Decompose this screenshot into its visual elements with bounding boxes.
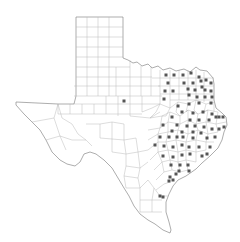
county-marker bbox=[167, 82, 170, 85]
county-marker bbox=[188, 103, 191, 106]
county-marker bbox=[218, 116, 221, 119]
county-marker bbox=[190, 72, 193, 75]
county-marker bbox=[182, 74, 185, 77]
county-marker bbox=[218, 128, 221, 131]
county-marker bbox=[192, 131, 195, 134]
county-marker bbox=[181, 144, 184, 147]
texas-county-map: Texas counties bbox=[0, 0, 240, 242]
county-marker bbox=[175, 173, 178, 176]
county-marker bbox=[172, 146, 175, 149]
county-marker bbox=[204, 96, 207, 99]
county-marker bbox=[173, 74, 176, 77]
county-marker bbox=[123, 100, 126, 103]
county-marker bbox=[204, 89, 207, 92]
county-marker bbox=[171, 130, 174, 133]
county-marker bbox=[205, 79, 208, 82]
county-marker bbox=[210, 102, 213, 105]
county-marker bbox=[201, 155, 204, 158]
county-marker bbox=[189, 153, 192, 156]
county-marker bbox=[182, 136, 185, 139]
county-marker bbox=[187, 164, 190, 167]
county-marker bbox=[215, 116, 218, 119]
county-marker bbox=[206, 137, 209, 140]
county-marker bbox=[201, 86, 204, 89]
county-marker bbox=[179, 164, 182, 167]
county-marker bbox=[211, 128, 214, 131]
county-marker bbox=[177, 105, 180, 108]
county-marker bbox=[192, 137, 195, 140]
county-marker bbox=[172, 90, 175, 93]
county-marker bbox=[208, 119, 211, 122]
county-marker bbox=[186, 125, 189, 128]
county-marker bbox=[162, 124, 165, 127]
county-marker bbox=[202, 111, 205, 114]
county-marker bbox=[209, 146, 212, 149]
county-marker bbox=[189, 119, 192, 122]
county-marker bbox=[172, 156, 175, 159]
county-marker bbox=[211, 96, 214, 99]
county-marker bbox=[188, 94, 191, 97]
county-marker bbox=[194, 89, 197, 92]
county-marker bbox=[211, 113, 214, 116]
county-marker bbox=[222, 116, 225, 119]
county-marker bbox=[171, 116, 174, 119]
county-marker bbox=[176, 124, 179, 127]
county-marker bbox=[162, 196, 165, 199]
county-marker bbox=[181, 111, 184, 114]
county-marker bbox=[188, 146, 191, 149]
county-marker bbox=[181, 154, 184, 157]
county-marker bbox=[163, 98, 166, 101]
county-marker bbox=[214, 136, 217, 139]
county-marker bbox=[210, 90, 213, 93]
county-marker bbox=[223, 126, 226, 129]
county-marker bbox=[163, 145, 166, 148]
county-marker bbox=[170, 164, 173, 167]
county-marker bbox=[181, 131, 184, 134]
county-marker bbox=[200, 132, 203, 135]
county-marker bbox=[176, 136, 179, 139]
map-canvas bbox=[0, 0, 240, 242]
county-marker bbox=[169, 176, 172, 179]
county-marker bbox=[168, 136, 171, 139]
county-marker bbox=[198, 76, 201, 79]
county-marker bbox=[159, 195, 162, 198]
county-marker bbox=[194, 125, 197, 128]
county-marker bbox=[210, 82, 213, 85]
county-marker bbox=[203, 126, 206, 129]
county-marker bbox=[154, 144, 157, 147]
county-marker bbox=[159, 136, 162, 139]
county-marker bbox=[162, 155, 165, 158]
county-marker bbox=[198, 102, 201, 105]
county-marker bbox=[188, 170, 191, 173]
county-marker bbox=[164, 90, 167, 93]
county-marker bbox=[165, 74, 168, 77]
county-marker bbox=[168, 180, 171, 183]
county-marker bbox=[178, 170, 181, 173]
county-marker bbox=[192, 112, 195, 115]
county-marker bbox=[192, 82, 195, 85]
county-marker bbox=[183, 82, 186, 85]
county-marker bbox=[206, 153, 209, 156]
county-marker bbox=[198, 146, 201, 149]
county-marker bbox=[172, 179, 175, 182]
county-marker bbox=[200, 80, 203, 83]
county-marker bbox=[196, 96, 199, 99]
county-marker bbox=[187, 88, 190, 91]
county-marker bbox=[198, 119, 201, 122]
